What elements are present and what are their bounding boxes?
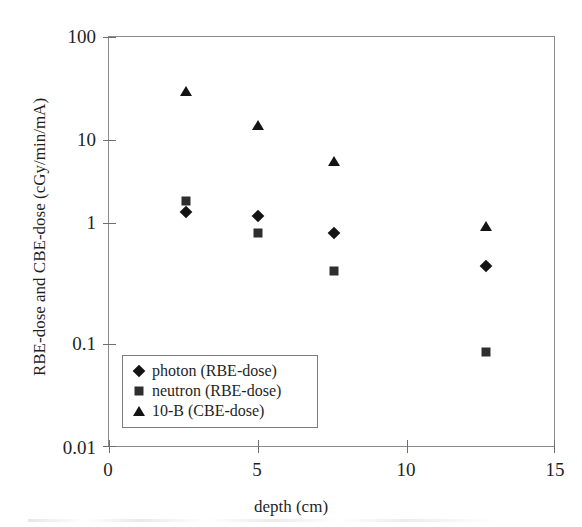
y-axis-tick (103, 140, 116, 141)
x-axis-tick (554, 440, 555, 453)
x-tick-label: 15 (530, 460, 580, 479)
y-axis-title-container: RBE-dose and CBE-dose (cGy/min/mA) (30, 27, 54, 447)
y-tick-label: 10 (10, 130, 96, 149)
figure-scatter-rbe-cbe-dose-vs-depth: RBE-dose and CBE-dose (cGy/min/mA) 100 1… (0, 0, 582, 527)
legend-item-label: photon (RBE-dose) (152, 363, 277, 379)
x-tick-label: 10 (381, 460, 431, 479)
data-point-10b (252, 120, 264, 130)
x-tick-label: 5 (232, 460, 282, 479)
legend-item-label: neutron (RBE-dose) (152, 383, 281, 399)
legend: photon (RBE-dose) neutron (RBE-dose) 10-… (122, 355, 318, 428)
data-point-photon (180, 206, 193, 219)
legend-marker-diamond-icon (131, 363, 147, 379)
data-point-neutron (254, 229, 263, 238)
legend-item: neutron (RBE-dose) (131, 381, 309, 400)
y-axis-title: RBE-dose and CBE-dose (cGy/min/mA) (30, 27, 50, 447)
legend-item: 10-B (CBE-dose) (131, 401, 309, 420)
x-axis-title: depth (cm) (0, 497, 582, 517)
data-point-photon (328, 227, 341, 240)
data-point-10b (480, 221, 492, 231)
data-point-neutron (182, 197, 191, 206)
x-axis-tick (258, 440, 259, 453)
data-point-10b (180, 86, 192, 96)
data-point-10b (328, 156, 340, 166)
y-tick-label: 0.01 (10, 438, 96, 457)
y-tick-label: 0.1 (10, 334, 96, 353)
y-axis-tick (103, 344, 116, 345)
data-point-neutron (482, 348, 491, 357)
x-tick-label: 0 (83, 460, 133, 479)
data-point-neutron (330, 267, 339, 276)
data-point-photon (252, 210, 265, 223)
x-axis-tick (407, 440, 408, 453)
x-axis-tick (109, 440, 110, 453)
legend-item: photon (RBE-dose) (131, 361, 309, 380)
y-tick-label: 1 (10, 213, 96, 232)
y-tick-label: 100 (10, 27, 96, 46)
data-point-photon (480, 260, 493, 273)
y-axis-tick (103, 37, 116, 38)
y-axis-tick (103, 223, 116, 224)
scan-artifact (28, 519, 498, 522)
legend-item-label: 10-B (CBE-dose) (152, 403, 264, 419)
legend-marker-square-icon (131, 383, 147, 399)
legend-marker-triangle-icon (131, 403, 147, 419)
